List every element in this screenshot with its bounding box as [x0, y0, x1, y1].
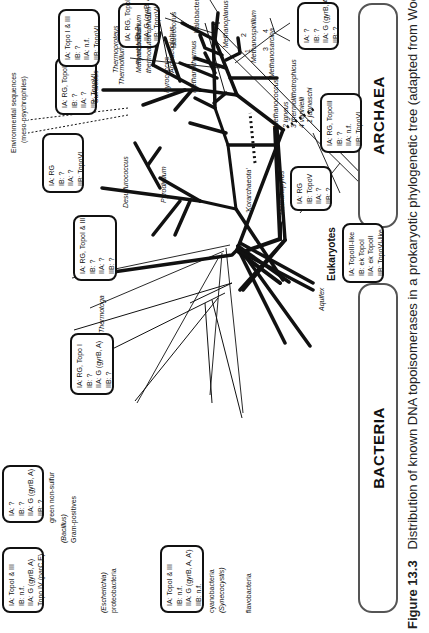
taxon-aquifex: Aquifex: [318, 288, 325, 311]
num-2: 2: [240, 33, 247, 37]
flavobacteria-line: [226, 248, 243, 413]
taxon-methanothermus: Methanothermus: [190, 40, 197, 93]
box-thermotoga: IA: RG, Topo I IB: ? IIA: G (gyrB, A) II…: [70, 333, 114, 395]
num-3: 3: [262, 47, 269, 51]
num-4: 4: [262, 29, 269, 33]
cyanobacteria-line: [210, 253, 222, 395]
box-methanobacterium: IA: Topo I & III IB: ? IIA: n.f. IIB: To…: [58, 9, 100, 67]
taxon-thermoautotrophicum: thermoautotrophicum: [145, 7, 152, 73]
box-cyanobacteria: IA: TopoI & III IB: n.f. IIA: G (gyrB, A…: [160, 545, 204, 613]
taxon-bacillus: (Bacillus): [60, 514, 67, 543]
taxon-methanoplanus: Methanoplanus: [222, 0, 229, 48]
taxon-korarchaeota: 'Korarchaeota': [245, 168, 252, 213]
num-1: 1: [244, 49, 251, 53]
box-sulfolobus: IA: RG IB: ? IIA: ? IIB: TopoVI: [42, 133, 84, 193]
phylogenetic-figure: BACTERIA ARCHAEA Figure 13.3 Distributio…: [0, 0, 429, 633]
bacteria-domain-pill: BACTERIA: [358, 283, 398, 613]
taxon-sulfolobus: Sulfolobus: [92, 70, 99, 103]
methanococcus-jannaschi: 1 jannaschi: [306, 88, 313, 123]
methanococcus-igneus: 2 igneus: [282, 102, 289, 128]
taxon-flavobacteria: flavobacteria: [245, 573, 252, 613]
figure-caption: Figure 13.3 Distribution of known DNA to…: [405, 0, 420, 629]
taxon-escherichia: (Escherichia): [100, 572, 107, 613]
taxon-methanospirillum: Methanospirillum: [250, 10, 257, 63]
taxon-halococcus: Halococcus: [170, 12, 177, 48]
taxon-halobacterium: Halobacterium: [193, 0, 200, 33]
taxon-cyanobacteria: cyanobacteria: [208, 569, 215, 613]
proteobacteria-line: [137, 255, 220, 403]
box-gram-positives: IA: TopoI & III IB: n.f. IIA: G (gyrB, A…: [2, 547, 44, 613]
taxon-meso-psychrophiles: (meso-psychrophiles): [20, 76, 27, 143]
taxon-green-non-sulfur: green non-sulfur: [48, 472, 55, 523]
eukaryotes-label: Eukaryotes: [326, 227, 337, 281]
box-green-non-sulfur: IA: ? IB: ? IIA: G (gyrB, A) IIB: ?: [2, 465, 44, 523]
taxon-methanosarcina: Methanosarcina: [268, 28, 275, 78]
archaea-domain-pill: ARCHAEA: [358, 3, 398, 228]
taxon-thermoproteus: Thermoproteus: [112, 26, 119, 73]
taxon-environmental: Environmental sequences: [10, 72, 17, 153]
methanococcus-thermolithotrophicus: 3 thermolithotrophicus: [290, 59, 297, 128]
taxon-methanobacterium: Methanobacterium: [135, 15, 142, 73]
box-methanococcus: IA: RG, TopoIII IB: ? IIA: n.f. IIB: Top…: [320, 93, 362, 153]
bacteria-archaea-trunk: [237, 130, 283, 250]
taxon-synechocystis: (Synecocystis): [218, 567, 225, 613]
caption-label: Figure 13.3: [405, 560, 420, 629]
box-methanopyrus: IA: RG IB: TopoV IIA: ? IIB: ?: [290, 166, 332, 211]
taxon-methanococcus: Methanococcus: [272, 79, 279, 128]
methanococcus-vannielii: 4 vannielii: [298, 97, 305, 128]
aquifex-stem: [237, 250, 313, 290]
box-halo-methano: IA: ? IB: ? IIA: G (gyrB, A) IIB: ?: [297, 2, 339, 50]
box-desulfurococcus: IA: RG, TopoI & III IB: ? IIA: ? IIB: ?: [73, 215, 117, 281]
taxon-desulfurococcus: Desulfurococcus: [122, 156, 129, 208]
bacteria-label: BACTERIA: [370, 407, 387, 489]
taxon-thermofilum: Thermofilum: [118, 46, 125, 85]
taxon-proteobacteria: proteobacteria: [110, 568, 117, 613]
taxon-gram-positives: Gram-positives: [70, 496, 77, 543]
box-eukaryotes: IA: TopoIII-like IB: ek TopoI IIA: ek To…: [342, 223, 384, 283]
taxon-methanopyrus: Methanopyrus: [278, 171, 285, 215]
taxon-pyrodictium: Pyrodictium: [160, 166, 167, 203]
korarchaeota-dash: [250, 113, 255, 163]
caption-text: Distribution of known DNA topoisomerases…: [405, 0, 420, 550]
archaea-label: ARCHAEA: [370, 76, 387, 155]
taxon-thermotoga: Thermotoga: [98, 295, 105, 333]
